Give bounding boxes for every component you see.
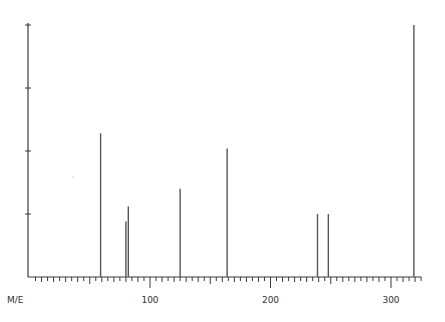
x-axis-title: M/E [7, 295, 24, 305]
speck-artifact [72, 176, 73, 177]
x-tick-label: 200 [262, 295, 279, 305]
y-axis [25, 23, 31, 277]
x-tick-label: 100 [141, 295, 158, 305]
x-tick-label: 300 [382, 295, 399, 305]
x-tick-labels: 100200300 [141, 295, 399, 305]
mass-spectrum-chart: 100200300 M/E [0, 0, 445, 322]
peaks [101, 25, 414, 277]
x-axis [28, 277, 421, 288]
